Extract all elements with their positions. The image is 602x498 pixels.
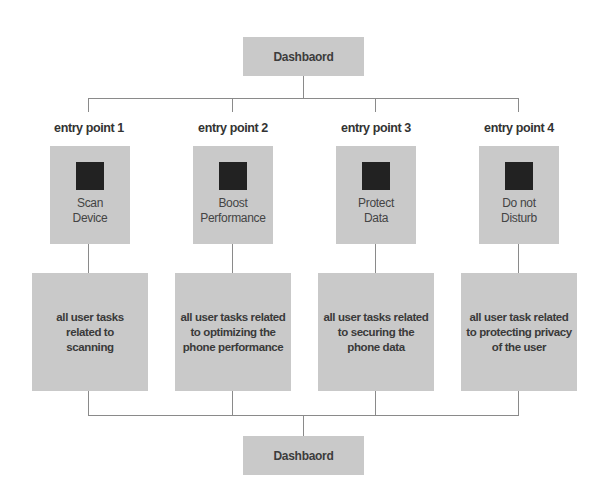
feature-name-line1: Scan [77, 196, 103, 211]
square-icon [76, 162, 104, 190]
description-text: all user task related to protecting priv… [465, 310, 573, 355]
connector-top-drop-4 [518, 98, 519, 112]
description-node-1: all user tasks related to scanning [32, 273, 148, 391]
feature-node-scan-device: Scan Device [50, 146, 130, 244]
connector-top-bus [88, 98, 519, 99]
connector-bottom-stem [303, 415, 304, 436]
feature-node-do-not-disturb: Do not Disturb [479, 146, 559, 244]
square-icon [505, 162, 533, 190]
connector-mid-3 [375, 244, 376, 273]
entry-point-label-2: entry point 2 [173, 121, 293, 135]
square-icon [362, 162, 390, 190]
connector-top-drop-3 [375, 98, 376, 112]
dashboard-node-top-label: Dashbaord [274, 50, 334, 64]
connector-mid-4 [518, 244, 519, 273]
connector-mid-2 [232, 244, 233, 273]
dashboard-node-bottom-label: Dashbaord [274, 449, 334, 463]
connector-top-stem [303, 75, 304, 98]
connector-mid-1 [88, 244, 89, 273]
connector-bottom-rise-4 [518, 391, 519, 415]
feature-name-line2: Data [364, 211, 388, 226]
connector-bottom-rise-1 [88, 391, 89, 415]
feature-node-boost-performance: Boost Performance [193, 146, 273, 244]
feature-name-line1: Protect [358, 196, 394, 211]
dashboard-node-top: Dashbaord [243, 37, 364, 76]
description-text: all user tasks related to optimizing the… [179, 310, 287, 355]
feature-name-line2: Disturb [501, 211, 537, 226]
connector-bottom-rise-3 [375, 391, 376, 415]
dashboard-node-bottom: Dashbaord [243, 436, 364, 475]
description-text: all user tasks related to securing the p… [322, 310, 430, 355]
connector-top-drop-1 [88, 98, 89, 112]
description-text: all user tasks related to scanning [42, 310, 138, 355]
square-icon [219, 162, 247, 190]
feature-name-line1: Do not [502, 196, 536, 211]
connector-top-drop-2 [232, 98, 233, 112]
feature-name-line2: Performance [200, 211, 265, 226]
feature-node-protect-data: Protect Data [336, 146, 416, 244]
connector-bottom-rise-2 [232, 391, 233, 415]
description-node-3: all user tasks related to securing the p… [318, 273, 434, 391]
feature-name-line2: Device [73, 211, 108, 226]
feature-name-line1: Boost [218, 196, 247, 211]
entry-point-label-4: entry point 4 [459, 121, 579, 135]
entry-point-label-1: entry point 1 [29, 121, 149, 135]
description-node-2: all user tasks related to optimizing the… [175, 273, 291, 391]
description-node-4: all user task related to protecting priv… [461, 273, 577, 391]
entry-point-label-3: entry point 3 [316, 121, 436, 135]
